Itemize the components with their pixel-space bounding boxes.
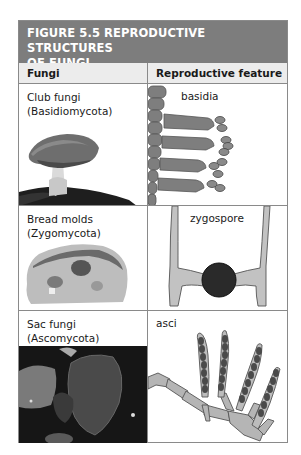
- fungi-cell: Sac fungi (Ascomycota): [19, 311, 148, 443]
- table-row-club-fungi: Club fungi (Basidiomycota) basidia: [19, 84, 287, 206]
- table-row-sac-fungi: Sac fungi (Ascomycota) asci: [19, 311, 287, 443]
- basidia-diagram: [148, 84, 287, 205]
- feature-cell: asci: [148, 311, 287, 443]
- feature-cell: zygospore: [148, 206, 287, 310]
- figure-title-line-1: FIGURE 5.5 REPRODUCTIVE STRUCTURES: [27, 26, 279, 56]
- column-header-reproductive-feature: Reproductive feature: [148, 63, 287, 84]
- fungi-common-name: Bread molds: [27, 212, 101, 226]
- feature-label-zygospore: zygospore: [190, 212, 244, 224]
- fungi-common-name: Club fungi: [27, 90, 112, 104]
- fungi-name: Sac fungi (Ascomycota): [27, 317, 99, 345]
- feature-label-basidia: basidia: [181, 90, 219, 102]
- column-header-fungi: Fungi: [19, 63, 148, 84]
- fungi-name: Club fungi (Basidiomycota): [27, 90, 112, 118]
- fungi-phylum: (Ascomycota): [27, 331, 99, 345]
- fungi-phylum: (Zygomycota): [27, 226, 101, 240]
- figure-table: FIGURE 5.5 REPRODUCTIVE STRUCTURES OF FU…: [18, 20, 288, 443]
- fungi-phylum: (Basidiomycota): [27, 104, 112, 118]
- fungi-common-name: Sac fungi: [27, 317, 99, 331]
- asci-diagram: [148, 311, 287, 443]
- fungi-cell: Club fungi (Basidiomycota): [19, 84, 148, 205]
- fungi-cell: Bread molds (Zygomycota): [19, 206, 148, 310]
- feature-label-asci: asci: [156, 317, 177, 329]
- figure-title: FIGURE 5.5 REPRODUCTIVE STRUCTURES OF FU…: [19, 21, 287, 63]
- fungi-name: Bread molds (Zygomycota): [27, 212, 101, 240]
- table-row-bread-molds: Bread molds (Zygomycota) zygospore: [19, 206, 287, 311]
- feature-cell: basidia: [148, 84, 287, 205]
